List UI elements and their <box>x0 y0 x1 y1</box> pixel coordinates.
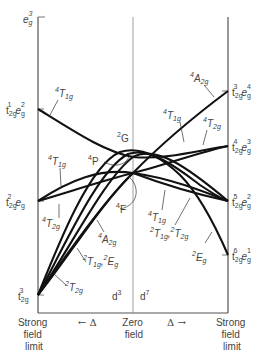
state-left-2T2g: 2T2g <box>64 280 83 295</box>
bottom-right-strong-field-limit: Strong field limit <box>216 317 248 352</box>
right-config-t2g6eg1: t2g6eg1 <box>232 247 251 264</box>
state-left-4T1g-mid: 4T1g <box>48 154 66 169</box>
leader-2T1g-2T2g-right <box>175 198 190 225</box>
leader-4T1g-lower-right <box>162 190 165 210</box>
state-right-2Eg: 2Eg <box>191 250 207 265</box>
state-left-2T1g-2Eg: 2T1g,2Eg <box>82 254 118 269</box>
correlation-diagram: eg3 t2g1eg2 t2g2eg t2g3 t2g3eg4 t2g4eg3 … <box>0 0 269 354</box>
left-config-t2g3: t2g3 <box>18 287 29 304</box>
left-config-t2g2eg: t2g2eg <box>6 193 25 210</box>
right-config-t2g3eg4: t2g3eg4 <box>232 83 251 100</box>
d3-label: d3 <box>112 289 122 302</box>
state-left-4A2g: 4A2g <box>98 232 116 247</box>
d7-label: d7 <box>140 289 150 302</box>
leader-4T2g-right <box>203 130 207 145</box>
leader-4A2g-left <box>97 220 104 232</box>
state-right-4T2g: 4T2g <box>203 116 221 131</box>
delta-arrow-right: Δ → <box>167 317 186 328</box>
term-4F: 4F <box>116 202 126 215</box>
term-2G: 2G <box>117 131 129 144</box>
state-left-4T2g: 4T2g <box>42 216 60 231</box>
state-right-4T1g-upper: 4T1g <box>163 108 181 123</box>
state-right-4T1g-lower: 4T1g <box>148 210 166 225</box>
state-left-4T1g-top: 4T1g <box>55 86 73 101</box>
left-config-t2g1eg2: t2g1eg2 <box>6 101 25 118</box>
state-right-4A2g: 4A2g <box>190 71 208 86</box>
leader-4T1g-top <box>50 100 58 115</box>
right-config-t2g4eg3: t2g4eg3 <box>232 138 251 155</box>
term-4P: 4P <box>88 154 99 167</box>
state-right-2T1g-2T2g: 2T1g,2T2g <box>149 226 189 241</box>
leader-4A2g-right <box>204 85 214 97</box>
leader-2Eg-right <box>205 232 212 243</box>
curve-4T1g-right-lower <box>133 173 228 201</box>
bottom-left-strong-field-limit: Strong field limit <box>18 317 50 352</box>
leader-4T1g-mid <box>60 168 61 186</box>
right-config-t2g5eg2: t2g5eg2 <box>232 193 251 210</box>
left-top-label: eg3 <box>23 10 33 27</box>
bottom-center-zero-field: Zero field <box>122 317 145 340</box>
delta-arrow-left: ← Δ <box>78 317 97 328</box>
